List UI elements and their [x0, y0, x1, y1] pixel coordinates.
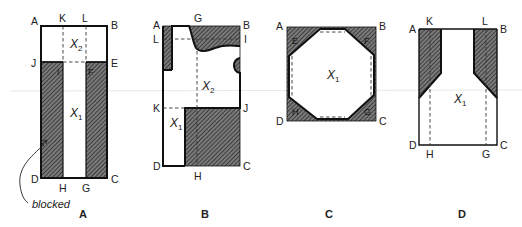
panel-d: A K L B D H G C X1 D	[409, 15, 508, 220]
region-d-x1: X1	[453, 92, 467, 108]
label-a-B: B	[111, 19, 118, 31]
label-d-L: L	[482, 15, 488, 27]
label-b-A: A	[153, 19, 160, 31]
panel-b-blocked-bottom	[185, 108, 240, 166]
label-d-H: H	[426, 148, 434, 160]
label-d-D: D	[409, 139, 417, 151]
label-b-K: K	[153, 102, 160, 114]
label-c-F: F	[364, 36, 370, 46]
label-a-H: H	[59, 182, 67, 194]
label-c-B: B	[379, 20, 386, 32]
label-c-E: E	[292, 36, 298, 46]
label-b-J: J	[243, 102, 248, 114]
region-a-x1: X1	[69, 106, 83, 122]
region-b-x1: X1	[169, 116, 183, 132]
panel-a: A K L B J I F E D H G C X2 X1 blocked A	[20, 12, 119, 220]
panel-label-b: B	[201, 208, 209, 220]
label-c-D: D	[276, 115, 284, 127]
panel-b-blocked-topleft	[163, 26, 172, 70]
label-b-I: I	[244, 33, 247, 45]
blocked-annotation: blocked	[32, 198, 71, 210]
label-a-A: A	[31, 15, 38, 27]
panel-d-blocked-left	[419, 29, 441, 98]
label-d-C: C	[500, 139, 508, 151]
panel-label-c: C	[325, 208, 333, 220]
label-d-A: A	[409, 23, 416, 35]
label-c-A: A	[276, 20, 283, 32]
panel-a-blocked-right	[86, 62, 107, 178]
label-d-K: K	[426, 15, 433, 27]
label-a-C: C	[111, 173, 119, 185]
label-c-G: G	[364, 107, 371, 117]
label-a-I: I	[57, 67, 60, 77]
panel-b: A G B L I K J D H C X2 X1 B	[153, 12, 251, 220]
panel-a-blocked-left	[41, 62, 63, 178]
label-b-G: G	[194, 12, 202, 24]
panel-c: A B E F H G D C X1 C	[276, 20, 387, 220]
label-a-K: K	[59, 12, 66, 24]
label-a-D: D	[31, 173, 39, 185]
label-a-G: G	[82, 182, 90, 194]
label-b-B: B	[243, 19, 250, 31]
label-c-H: H	[292, 107, 299, 117]
region-a-x2: X2	[69, 37, 83, 53]
label-b-H: H	[194, 170, 202, 182]
label-d-G: G	[482, 148, 490, 160]
figure-canvas: A K L B J I F E D H G C X2 X1 blocked A	[0, 0, 522, 227]
label-a-E: E	[111, 57, 118, 69]
label-b-L: L	[153, 33, 159, 45]
region-b-x2: X2	[201, 79, 215, 95]
label-a-L: L	[82, 12, 88, 24]
label-b-C: C	[243, 160, 251, 172]
panel-d-blocked-right	[474, 29, 497, 98]
label-b-D: D	[153, 160, 161, 172]
label-c-C: C	[379, 115, 387, 127]
label-d-B: B	[500, 23, 507, 35]
panel-label-d: D	[458, 208, 466, 220]
label-a-J: J	[31, 57, 36, 69]
panel-label-a: A	[79, 208, 87, 220]
label-a-F: F	[88, 67, 94, 77]
